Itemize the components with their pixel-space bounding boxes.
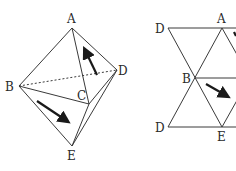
edge-CD <box>89 70 117 104</box>
geometry-figure: A B C D E D A B D E <box>0 0 236 171</box>
label-C: C <box>77 89 86 103</box>
edge-BE <box>19 86 72 146</box>
label-D-top: D <box>155 22 165 36</box>
left-solid: A B C D E <box>5 12 128 163</box>
edge-DE <box>72 70 117 146</box>
edge-BD-hidden <box>19 70 117 86</box>
label-A: A <box>66 12 76 26</box>
right-net: D A B D E <box>155 12 236 144</box>
edge-E-right <box>222 95 236 127</box>
arrow-up <box>85 50 97 75</box>
edge-AB <box>19 28 72 86</box>
label-A-net: A <box>216 12 226 26</box>
arrow-net <box>206 84 227 96</box>
edge-AD <box>72 28 117 70</box>
label-B-net: B <box>182 72 191 86</box>
label-E: E <box>67 149 76 163</box>
label-B: B <box>5 80 14 94</box>
edge-CE <box>72 104 89 146</box>
arrow-net-top <box>234 32 236 36</box>
label-D: D <box>118 64 128 78</box>
label-D-bottom: D <box>155 121 165 135</box>
label-E-net: E <box>217 130 226 144</box>
